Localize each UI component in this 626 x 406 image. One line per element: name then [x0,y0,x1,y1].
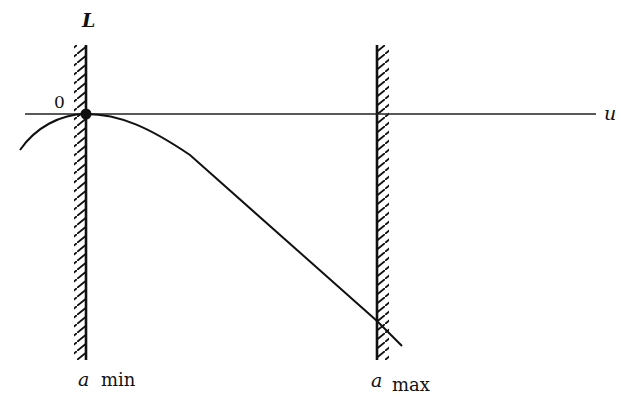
left-wall-hatching [74,45,85,360]
origin-label: 0 [54,92,65,112]
a-min-subscript: min [101,369,136,390]
left-boundary-wall [74,45,86,360]
x-axis-label: u [604,102,616,124]
a-max-symbol: a [371,369,382,391]
right-wall-hatching [378,45,389,360]
right-boundary-wall [377,45,389,360]
a-max-subscript: max [392,374,430,395]
y-axis-label: L [81,9,95,31]
origin-point [81,109,92,120]
diagram-canvas: L 0 u a min a max [0,0,626,406]
a-min-symbol: a [78,368,89,390]
